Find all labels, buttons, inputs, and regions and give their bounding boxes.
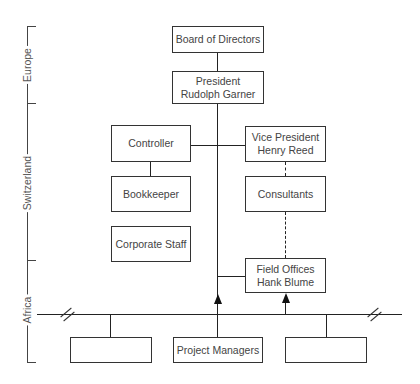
node-title: President [196, 75, 240, 88]
connector-controller-bookkeeper [150, 162, 151, 176]
connector-controller-vp [191, 145, 245, 146]
node-person: Hank Blume [257, 276, 314, 289]
node-project-left [70, 337, 152, 363]
connector-consultants-field-offices [285, 212, 286, 258]
connector-bus-project-left [110, 314, 111, 337]
project-bus-line [37, 314, 402, 315]
node-consultants: Consultants [245, 176, 326, 212]
region-tick-top [27, 26, 36, 27]
node-title: Field Offices [256, 263, 314, 276]
node-board-of-directors: Board of Directors [172, 26, 264, 53]
node-corporate-staff: Corporate Staff [111, 226, 191, 262]
node-label: Corporate Staff [115, 238, 186, 251]
node-title: Vice President [252, 131, 320, 144]
node-label: Controller [128, 137, 174, 150]
region-tick-europe-switzerland [27, 103, 36, 104]
connector-bus-project-right [326, 314, 327, 337]
connector-vp-consultants [285, 162, 286, 176]
node-president: President Rudolph Garner [172, 71, 264, 104]
node-label: Consultants [258, 188, 313, 201]
region-tick-switzerland-africa [27, 260, 36, 261]
connector-trunk-field-offices [217, 276, 245, 277]
node-project-managers: Project Managers [173, 337, 263, 363]
region-label-europe: Europe [21, 46, 33, 84]
connector-board-president [217, 53, 218, 71]
node-person: Rudolph Garner [181, 88, 256, 101]
node-label: Bookkeeper [123, 188, 179, 201]
region-label-switzerland: Switzerland [21, 154, 33, 212]
node-controller: Controller [111, 125, 191, 162]
region-tick-bottom [27, 362, 36, 363]
region-label-africa: Africa [21, 295, 33, 326]
node-vice-president: Vice President Henry Reed [245, 126, 326, 162]
node-label: Project Managers [177, 344, 259, 357]
node-bookkeeper: Bookkeeper [111, 176, 191, 212]
node-project-right [285, 337, 367, 363]
arrow-up-field-offices [282, 293, 290, 303]
arrow-up-trunk [214, 294, 222, 304]
node-label: Board of Directors [176, 33, 261, 46]
node-field-offices: Field Offices Hank Blume [245, 258, 326, 293]
node-person: Henry Reed [257, 144, 313, 157]
